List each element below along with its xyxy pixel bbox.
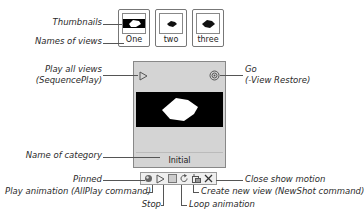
play-button[interactable] bbox=[155, 174, 165, 184]
leader-line bbox=[103, 157, 160, 158]
stop-icon bbox=[168, 174, 177, 183]
loop-button[interactable] bbox=[180, 174, 190, 184]
new-view-button[interactable] bbox=[192, 174, 202, 184]
callout-names-of-views: Names of views bbox=[35, 36, 102, 46]
callout-thumbnails: Thumbnails bbox=[53, 17, 102, 27]
thumbnail-two[interactable]: two bbox=[155, 9, 187, 47]
thumbnail-one[interactable]: One bbox=[118, 9, 150, 47]
play-icon bbox=[156, 174, 165, 184]
view-image bbox=[136, 92, 223, 127]
callout-go: Go bbox=[245, 64, 257, 74]
close-icon bbox=[204, 174, 213, 183]
callout-play-animation: Play animation (AllPlay command) bbox=[5, 186, 151, 196]
callout-stop: Stop bbox=[142, 199, 161, 209]
leader-line bbox=[181, 205, 187, 206]
leader-line bbox=[103, 75, 138, 76]
callout-create-new-view: Create new view (NewShot command) bbox=[201, 186, 364, 196]
leader-line bbox=[163, 185, 164, 205]
callout-play-all: Play all views bbox=[45, 64, 102, 74]
callout-pinned: Pinned bbox=[73, 174, 102, 184]
target-circle-icon bbox=[209, 70, 220, 81]
go-button[interactable] bbox=[209, 70, 220, 81]
leader-line bbox=[103, 24, 122, 25]
callout-loop-animation: Loop animation bbox=[189, 199, 255, 209]
callout-go-cmd: (-View Restore) bbox=[245, 75, 310, 85]
view-name: two bbox=[156, 35, 186, 44]
thumbnail-three[interactable]: three bbox=[192, 9, 224, 47]
loop-icon bbox=[180, 174, 189, 183]
leader-line bbox=[161, 205, 164, 206]
callout-close-show-motion: Close show motion bbox=[245, 174, 325, 184]
stop-button[interactable] bbox=[167, 174, 177, 184]
leader-line bbox=[220, 75, 243, 76]
pin-button[interactable] bbox=[143, 174, 153, 184]
thumbnail-image bbox=[196, 13, 220, 34]
leader-line bbox=[181, 185, 182, 205]
callout-name-of-category: Name of category bbox=[26, 150, 102, 160]
close-button[interactable] bbox=[204, 174, 214, 184]
leader-line bbox=[103, 180, 145, 181]
leader-line bbox=[216, 180, 243, 181]
category-panel[interactable]: Initial bbox=[133, 61, 226, 168]
divider bbox=[136, 152, 223, 153]
leader-line bbox=[193, 192, 199, 193]
leader-line bbox=[146, 192, 153, 193]
leader-line bbox=[152, 185, 153, 192]
thumbnail-image bbox=[159, 13, 183, 34]
leader-line bbox=[103, 43, 124, 44]
new-view-icon bbox=[192, 174, 202, 184]
callout-play-all-cmd: (SequencePlay) bbox=[36, 75, 102, 85]
show-motion-toolbar bbox=[140, 172, 217, 185]
pin-icon bbox=[144, 174, 153, 183]
play-all-views-button[interactable] bbox=[139, 71, 148, 81]
leader-line bbox=[193, 185, 194, 192]
view-name: three bbox=[193, 35, 223, 44]
play-outline-icon bbox=[139, 71, 148, 81]
thumbnail-image bbox=[122, 13, 146, 34]
